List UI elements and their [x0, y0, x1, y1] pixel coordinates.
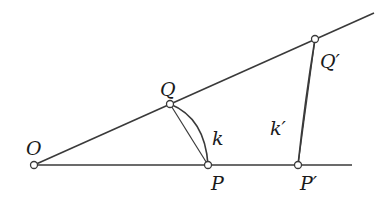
point-Q [167, 101, 174, 108]
label-Q-prime: Q′ [320, 50, 341, 72]
diagram-canvas: O Q P Q′ P′ k k′ [0, 0, 391, 207]
label-P-prime: P′ [299, 172, 318, 194]
point-P-prime [295, 162, 302, 169]
point-Q-prime [312, 36, 319, 43]
chord-QP [170, 104, 208, 165]
point-O [31, 162, 38, 169]
label-Q: Q [160, 78, 176, 100]
label-O: O [26, 137, 42, 159]
point-P [205, 162, 212, 169]
label-P: P [210, 172, 225, 194]
label-k: k [212, 127, 224, 149]
label-k-prime: k′ [270, 117, 287, 139]
